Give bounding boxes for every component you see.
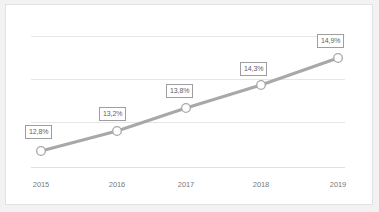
x-tick-2015: 2015 (21, 181, 61, 189)
data-label-2019: 14,9% (317, 34, 344, 48)
chart-plot-area: 12,8% 13,2% 13,8% 14,3% 14,9% 2015 2016 … (0, 0, 379, 212)
data-point-marker[interactable] (113, 127, 122, 136)
data-point-marker[interactable] (37, 147, 46, 156)
data-label-2017: 13,8% (166, 84, 193, 98)
x-tick-2018: 2018 (241, 181, 281, 189)
data-label-2016: 13,2% (99, 107, 126, 121)
x-tick-2019: 2019 (318, 181, 358, 189)
data-point-marker[interactable] (182, 104, 191, 113)
x-tick-2016: 2016 (97, 181, 137, 189)
data-point-marker[interactable] (334, 54, 343, 63)
data-label-2015: 12,8% (25, 125, 52, 139)
x-tick-2017: 2017 (166, 181, 206, 189)
data-label-2018: 14,3% (240, 62, 267, 76)
data-point-marker[interactable] (257, 81, 266, 90)
